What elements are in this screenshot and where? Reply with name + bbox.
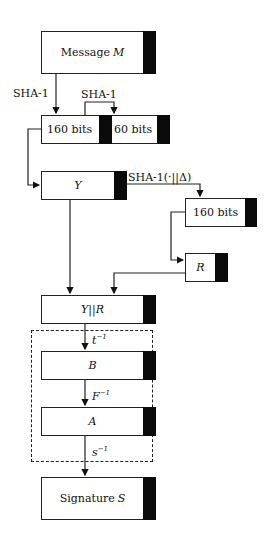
r-pad-block	[215, 253, 228, 282]
f-inverse-label: F−1	[92, 390, 110, 402]
a-box: A	[41, 407, 144, 436]
signature-box: Signature S	[41, 477, 144, 520]
sha1-top-label: SHA-1	[81, 89, 117, 100]
r-hash-160-bits-box: 160 bits	[185, 198, 246, 227]
r-label: R	[196, 261, 204, 274]
hash-160-bits-label: 160 bits	[47, 123, 92, 136]
b-box: B	[41, 351, 144, 380]
y-concat-r-box: Y||R	[41, 295, 144, 324]
s-inverse-label: s−1	[92, 446, 108, 458]
message-var: M	[113, 46, 124, 59]
y-concat-r-pad-block	[143, 295, 156, 324]
r-box: R	[185, 253, 216, 282]
hash-60-bits-label: 60 bits	[114, 123, 152, 136]
hash-right-pad-block	[157, 115, 170, 144]
t-inverse-label: t−1	[92, 334, 107, 346]
signature-var: S	[118, 492, 126, 505]
hash-160-bits-box: 160 bits	[41, 115, 100, 144]
sha1-left-label: SHA-1	[13, 88, 49, 99]
connector-lines	[0, 0, 271, 547]
signature-label: Signature	[60, 492, 115, 505]
b-label: B	[88, 359, 96, 372]
hash-60-bits-box: 60 bits	[112, 115, 158, 144]
a-label: A	[89, 415, 97, 428]
sha1-delta-label: SHA-1(·||Δ)	[128, 172, 191, 183]
b-pad-block	[143, 351, 156, 380]
hash-pad-block	[99, 115, 113, 144]
y-box: Y	[41, 171, 115, 200]
message-label: Message	[61, 46, 110, 59]
message-pad-block	[143, 31, 156, 74]
y-label: Y	[74, 179, 81, 192]
r-hash-160-bits-label: 160 bits	[193, 206, 238, 219]
signature-pad-block	[143, 477, 156, 520]
message-box: Message M	[41, 31, 144, 74]
r-hash-pad-block	[245, 198, 257, 227]
y-concat-r-label: Y||R	[81, 303, 104, 316]
a-pad-block	[143, 407, 156, 436]
y-pad-block	[114, 171, 127, 200]
